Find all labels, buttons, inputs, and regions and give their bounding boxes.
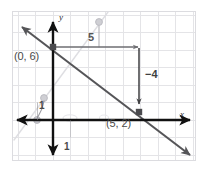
y-axis-label: y — [59, 13, 63, 22]
x-axis-label: x — [180, 110, 184, 119]
run-label: 5 — [88, 32, 94, 43]
point-label-0-6: (0, 6) — [14, 51, 39, 62]
point-marker-0-6 — [50, 44, 56, 50]
point-marker-5-2 — [136, 109, 142, 115]
point-label-5-2: (5, 2) — [106, 118, 131, 129]
graph-canvas — [0, 0, 205, 170]
unit-tick-label-horizontal: 1 — [64, 142, 70, 152]
coordinate-plane-figure: y x (0, 6) (5, 2) 5 −4 1 1 — [0, 0, 205, 170]
unit-tick-label-vertical: 1 — [39, 101, 45, 111]
rise-label: −4 — [145, 69, 158, 80]
